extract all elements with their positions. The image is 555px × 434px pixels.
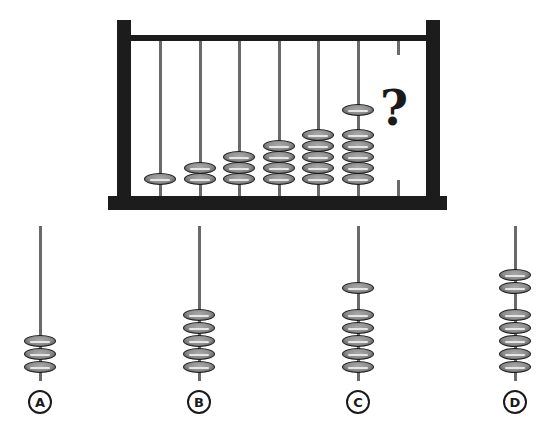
option-bead <box>183 348 215 360</box>
abacus-bead <box>342 173 374 185</box>
option-label-d[interactable]: D <box>503 390 527 414</box>
abacus-bead <box>263 140 295 152</box>
abacus-bead <box>144 173 176 185</box>
option-bead <box>183 309 215 321</box>
option-bead <box>183 361 215 373</box>
abacus-bead <box>223 173 255 185</box>
option-label-a[interactable]: A <box>28 390 52 414</box>
abacus-bead <box>342 162 374 174</box>
option-bead <box>499 348 531 360</box>
abacus-bead <box>302 129 334 141</box>
option-bead <box>342 322 374 334</box>
abacus-bead <box>342 104 374 116</box>
abacus-bead <box>184 162 216 174</box>
option-bead <box>499 309 531 321</box>
abacus-bead <box>302 162 334 174</box>
option-bead <box>499 361 531 373</box>
question-mark: ? <box>380 84 408 132</box>
abacus-bead <box>302 173 334 185</box>
option-bead <box>499 282 531 294</box>
abacus-bead <box>223 151 255 163</box>
option-bead <box>24 348 56 360</box>
option-label-b[interactable]: B <box>187 390 211 414</box>
option-bead <box>342 348 374 360</box>
abacus-bead <box>223 162 255 174</box>
abacus-bead <box>263 151 295 163</box>
abacus-bead <box>342 129 374 141</box>
abacus-base <box>108 196 447 210</box>
abacus-right-post <box>426 20 440 200</box>
option-label-c[interactable]: C <box>346 390 370 414</box>
option-bead <box>499 335 531 347</box>
abacus-bead <box>302 151 334 163</box>
abacus-bead <box>263 173 295 185</box>
option-bead <box>342 309 374 321</box>
missing-rod-top-stub <box>397 41 400 55</box>
option-bead <box>342 335 374 347</box>
abacus-bead <box>302 140 334 152</box>
option-bead <box>342 361 374 373</box>
abacus-left-post <box>117 20 131 200</box>
abacus-bead <box>263 162 295 174</box>
option-bead <box>183 335 215 347</box>
abacus-bead <box>342 140 374 152</box>
option-bead <box>183 322 215 334</box>
option-bead <box>24 335 56 347</box>
missing-rod-bottom-stub <box>397 180 400 196</box>
option-bead <box>499 269 531 281</box>
abacus-bead <box>184 173 216 185</box>
abacus-bead <box>342 151 374 163</box>
option-bead <box>499 322 531 334</box>
option-bead <box>24 361 56 373</box>
option-bead <box>342 282 374 294</box>
